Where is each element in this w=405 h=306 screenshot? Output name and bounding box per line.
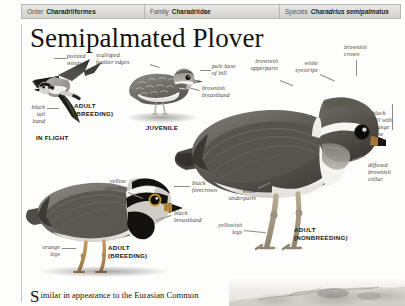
illustration-plate: pointed wings black tail band ADULT (BRE… (22, 52, 401, 277)
callout-diffused-brownish-collar: diffused brownish collar (368, 162, 391, 183)
callout-pointed-wings: pointed wings (67, 53, 86, 67)
adult-breeding-shadow (38, 266, 170, 277)
callout-white-underparts: white underparts (214, 188, 256, 202)
callout-orange-legs: orange legs (28, 244, 60, 258)
callout-black-forecrown: black forecrown (192, 180, 217, 194)
field-guide-page: Order Charadriiformes Family Charadriida… (0, 0, 405, 306)
taxonomy-order-cell: Order Charadriiformes (22, 5, 145, 18)
habitat-photo (229, 276, 405, 306)
caption-in-flight: IN FLIGHT (36, 134, 69, 142)
article-body: Similar in appearance to the Eurasian Co… (30, 290, 245, 303)
leader-brownish-crown (356, 60, 357, 76)
callout-yellow-eye-ring: yellow eye-ring (80, 178, 126, 192)
taxonomy-species-value: Charadrius semipalmatus (311, 8, 389, 15)
taxonomy-order-value: Charadriiformes (46, 8, 95, 15)
taxonomy-family-cell: Family Charadriidae (145, 5, 280, 18)
taxonomy-species-key: Species (285, 8, 308, 15)
taxonomy-family-key: Family (150, 8, 169, 15)
taxonomy-species-cell: Species Charadrius semipalmatus (280, 5, 400, 18)
leader-orange-legs (62, 248, 76, 249)
callout-yellowish-legs: yellowish legs (200, 222, 242, 236)
taxonomy-order-key: Order (27, 8, 43, 15)
body-text: imilar in appearance to the Eurasian Com… (40, 290, 198, 300)
callout-scalloped-feather-edges: scalloped feather edges (96, 52, 129, 66)
caption-adult-breeding: ADULT (BREEDING) (108, 244, 147, 259)
callout-black-breastband: black breastband (174, 210, 202, 224)
body-dropcap: S (30, 290, 40, 303)
page-title: Semipalmated Plover (30, 23, 264, 53)
caption-adult-nonbreeding: ADULT (NONBREEDING) (294, 226, 348, 241)
taxonomy-family-value: Charadriidae (172, 8, 211, 15)
habitat-photo-detail (229, 276, 405, 306)
leader-pale-base-of-bill (200, 70, 211, 71)
leader-pointed-wings (54, 58, 66, 59)
callout-black-bill-with-orange-base: black bill with orange base (372, 110, 393, 138)
callout-brownish-upperparts: brownish upperparts (228, 58, 278, 72)
leader-black-forecrown (174, 186, 190, 187)
callout-brownish-crown: brownish crown (344, 44, 367, 58)
taxonomy-header: Order Charadriiformes Family Charadriida… (21, 4, 401, 19)
callout-black-tail-band: black tail band (22, 104, 45, 125)
leader-black-tail-band (47, 108, 59, 109)
caption-in-flight-adult-breeding: ADULT (BREEDING) (74, 102, 113, 117)
callout-white-eyestripe: white eyestripe (280, 60, 318, 74)
